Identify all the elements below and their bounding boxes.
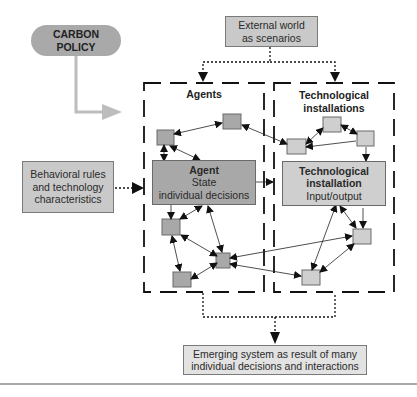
agent-node: Agent State individual decisions (152, 160, 256, 205)
tech-title-line1: Technological (284, 89, 384, 102)
arrowhead (132, 182, 144, 194)
carbon-policy-pill: CARBON POLICY (31, 25, 121, 56)
emerging-dotted-arrows (203, 293, 335, 334)
external-line2: as scenarios (242, 32, 301, 45)
policy-line1: CARBON (53, 28, 99, 41)
behavior-line2: and technology (32, 181, 103, 194)
technological-installation-node: Technological installation Input/output (282, 161, 386, 206)
tech-node-title1: Technological (299, 165, 369, 178)
emerging-line1: Emerging system as result of many (193, 348, 357, 361)
tech-node-title2: installation (306, 177, 361, 190)
external-world-box: External world as scenarios (225, 16, 318, 47)
arrowhead (270, 332, 280, 344)
external-dotted-arrows (203, 47, 335, 74)
tech-group-title: Technological installations (284, 89, 384, 114)
external-line1: External world (238, 19, 305, 32)
agent-decisions: individual decisions (159, 189, 249, 202)
agent-state: State (192, 176, 217, 189)
policy-arrow (76, 54, 122, 120)
behavior-line1: Behavioral rules (30, 168, 105, 181)
agent-title: Agent (189, 164, 219, 177)
tech-title-line2: installations (284, 102, 384, 115)
emerging-line2: individual decisions and interactions (191, 360, 359, 373)
behavior-line3: characteristics (34, 193, 101, 206)
arrowhead (198, 72, 208, 82)
behavioral-rules-box: Behavioral rules and technology characte… (22, 161, 114, 213)
emerging-system-box: Emerging system as result of many indivi… (183, 345, 367, 375)
tech-node-io: Input/output (306, 190, 361, 203)
agents-group-title: Agents (174, 88, 234, 101)
arrowhead (330, 72, 340, 82)
policy-line2: POLICY (56, 41, 95, 54)
